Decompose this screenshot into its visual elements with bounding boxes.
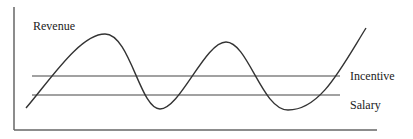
revenue-diagram: Revenue Incentive Salary (0, 0, 413, 139)
salary-label: Salary (350, 98, 381, 112)
revenue-label: Revenue (33, 19, 75, 33)
incentive-label: Incentive (350, 69, 395, 83)
revenue-curve (26, 28, 366, 110)
